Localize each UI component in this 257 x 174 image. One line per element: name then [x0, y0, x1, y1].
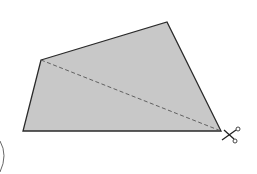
closing-parenthesis [0, 141, 4, 172]
diagram-canvas [0, 0, 257, 174]
scissors-icon [222, 127, 240, 143]
quadrilateral-shape [23, 22, 221, 131]
